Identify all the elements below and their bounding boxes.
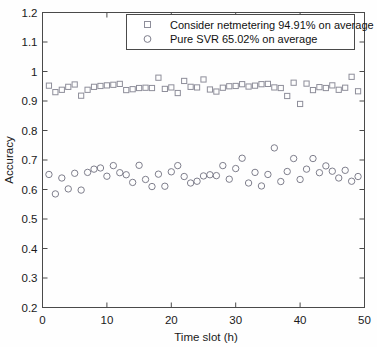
data-point-square bbox=[188, 84, 193, 89]
data-point-square bbox=[46, 83, 51, 88]
data-point-square bbox=[66, 84, 71, 89]
data-point-circle bbox=[181, 173, 187, 179]
data-point-square bbox=[355, 89, 360, 94]
data-point-square bbox=[72, 82, 77, 87]
data-point-circle bbox=[297, 176, 303, 182]
data-point-square bbox=[285, 93, 290, 98]
data-point-square bbox=[175, 90, 180, 95]
data-point-square bbox=[156, 75, 161, 80]
data-point-square bbox=[149, 85, 154, 90]
data-point-circle bbox=[168, 169, 174, 175]
data-point-square bbox=[169, 85, 174, 90]
y-tick-label: 0.7 bbox=[22, 154, 38, 166]
data-point-circle bbox=[290, 155, 296, 161]
y-tick-label: 0.5 bbox=[22, 213, 38, 225]
x-tick-label: 20 bbox=[165, 314, 178, 326]
data-point-square bbox=[98, 83, 103, 88]
data-point-square bbox=[214, 89, 219, 94]
data-point-square bbox=[91, 84, 96, 89]
data-point-circle bbox=[233, 165, 239, 171]
data-point-square bbox=[143, 85, 148, 90]
data-point-square bbox=[79, 93, 84, 98]
data-point-circle bbox=[271, 145, 277, 151]
data-point-square bbox=[53, 90, 58, 95]
x-axis-title: Time slot (h) bbox=[174, 331, 238, 343]
data-point-square bbox=[194, 85, 199, 90]
data-point-circle bbox=[220, 162, 226, 168]
data-point-square bbox=[220, 85, 225, 90]
data-point-circle bbox=[226, 176, 232, 182]
data-point-circle bbox=[104, 173, 110, 179]
data-point-circle bbox=[245, 180, 251, 186]
data-point-square bbox=[304, 81, 309, 86]
data-point-square bbox=[323, 85, 328, 90]
data-point-circle bbox=[239, 155, 245, 161]
data-point-square bbox=[117, 81, 122, 86]
series-consider-netmetering-points bbox=[46, 74, 360, 106]
data-point-square bbox=[227, 84, 232, 89]
data-point-circle bbox=[265, 171, 271, 177]
data-point-square bbox=[201, 77, 206, 82]
x-tick-label: 50 bbox=[358, 314, 371, 326]
data-point-circle bbox=[129, 179, 135, 185]
data-point-circle bbox=[187, 180, 193, 186]
data-point-square bbox=[59, 87, 64, 92]
data-point-circle bbox=[175, 162, 181, 168]
data-point-circle bbox=[348, 178, 354, 184]
y-tick-label: 0.8 bbox=[22, 125, 38, 137]
data-point-circle bbox=[329, 168, 335, 174]
data-point-square bbox=[246, 84, 251, 89]
data-point-square bbox=[124, 87, 129, 92]
legend-label-netmetering: Consider netmetering 94.91% on average bbox=[170, 19, 374, 31]
data-point-square bbox=[317, 85, 322, 90]
data-point-circle bbox=[162, 183, 168, 189]
data-point-circle bbox=[149, 183, 155, 189]
legend-label-pure-svr: Pure SVR 65.02% on average bbox=[170, 33, 317, 45]
data-point-circle bbox=[200, 173, 206, 179]
data-point-circle bbox=[252, 169, 258, 175]
data-point-circle bbox=[342, 167, 348, 173]
data-point-square bbox=[330, 83, 335, 88]
x-tick-label: 0 bbox=[39, 314, 45, 326]
x-tick-label: 40 bbox=[294, 314, 307, 326]
y-tick-label: 0.3 bbox=[22, 272, 38, 284]
data-point-square bbox=[310, 87, 315, 92]
figure-container: 0.20.30.40.50.60.70.80.911.11.2 01020304… bbox=[0, 0, 377, 347]
y-tick-label: 0.2 bbox=[22, 302, 38, 314]
data-point-square bbox=[137, 85, 142, 90]
data-point-circle bbox=[207, 172, 213, 178]
data-point-circle bbox=[117, 169, 123, 175]
data-point-circle bbox=[310, 155, 316, 161]
x-tick-label: 30 bbox=[229, 314, 242, 326]
data-point-circle bbox=[213, 172, 219, 178]
data-point-square bbox=[240, 82, 245, 87]
data-point-square bbox=[162, 86, 167, 91]
data-point-square bbox=[291, 80, 296, 85]
data-point-circle bbox=[258, 183, 264, 189]
data-point-circle bbox=[155, 171, 161, 177]
data-point-circle bbox=[65, 186, 71, 192]
y-tick-label: 1.1 bbox=[22, 36, 38, 48]
data-point-square bbox=[130, 87, 135, 92]
data-point-square bbox=[111, 82, 116, 87]
data-point-square bbox=[298, 101, 303, 106]
data-point-circle bbox=[72, 170, 78, 176]
data-point-circle bbox=[59, 175, 65, 181]
data-point-square bbox=[272, 85, 277, 90]
data-point-circle bbox=[303, 166, 309, 172]
y-tick-label: 1 bbox=[31, 66, 37, 78]
data-point-circle bbox=[316, 169, 322, 175]
data-point-circle bbox=[91, 166, 97, 172]
data-point-square bbox=[252, 83, 257, 88]
data-point-square bbox=[336, 87, 341, 92]
data-point-circle bbox=[194, 178, 200, 184]
data-point-square bbox=[259, 82, 264, 87]
y-tick-label: 0.4 bbox=[22, 243, 39, 255]
y-tick-label: 0.9 bbox=[22, 95, 38, 107]
data-point-circle bbox=[84, 169, 90, 175]
data-point-circle bbox=[97, 165, 103, 171]
y-tick-label: 0.6 bbox=[22, 184, 38, 196]
data-point-circle bbox=[110, 162, 116, 168]
series-pure-svr-points bbox=[46, 145, 362, 197]
y-axis-ticks: 0.20.30.40.50.60.70.80.911.11.2 bbox=[22, 7, 365, 314]
